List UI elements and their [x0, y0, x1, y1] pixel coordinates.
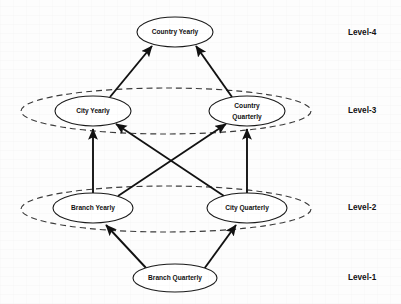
node-country-yearly[interactable]: Country Yearly: [137, 17, 213, 47]
edge-country-quarterly-to-country-yearly: [196, 46, 232, 97]
node-branch-yearly[interactable]: Branch Yearly: [53, 193, 133, 223]
node-country-quarterly[interactable]: Country Quarterly: [209, 96, 285, 126]
node-city-quarterly[interactable]: City Quarterly: [207, 193, 287, 223]
node-country-quarterly-shape[interactable]: [209, 96, 285, 126]
level-3-label: Level-3: [348, 106, 377, 115]
diagram-root: Country Yearly City Yearly Country Quart…: [0, 0, 401, 304]
level-4-label: Level-4: [348, 28, 377, 37]
node-country-yearly-label: Country Yearly: [152, 28, 199, 36]
level-labels-layer: Level-4 Level-3 Level-2 Level-1: [348, 28, 377, 282]
level-2-label: Level-2: [348, 203, 377, 212]
node-branch-quarterly-label: Branch Quarterly: [148, 274, 202, 282]
node-branch-yearly-label: Branch Yearly: [71, 204, 115, 212]
node-country-quarterly-label-line1: Country: [234, 102, 260, 110]
edges-layer: [93, 46, 247, 269]
node-city-quarterly-label: City Quarterly: [225, 204, 269, 212]
node-branch-quarterly[interactable]: Branch Quarterly: [133, 264, 217, 292]
level-1-label: Level-1: [348, 273, 377, 282]
node-city-yearly[interactable]: City Yearly: [55, 96, 131, 126]
edge-city-quarterly-to-city-yearly: [116, 124, 224, 196]
edge-city-yearly-to-country-yearly: [110, 46, 152, 97]
edge-branch-yearly-to-country-quarterly: [118, 124, 226, 196]
edge-branch-quarterly-to-city-quarterly: [204, 225, 236, 269]
node-country-quarterly-label-line2: Quarterly: [232, 113, 262, 121]
node-city-yearly-label: City Yearly: [76, 107, 110, 115]
lattice-diagram-canvas: Country Yearly City Yearly Country Quart…: [0, 0, 401, 304]
